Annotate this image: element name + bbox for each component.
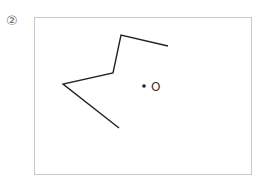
center-point-dot [142,84,146,88]
figure-canvas: O [0,0,266,179]
center-point-label: O [151,80,160,94]
